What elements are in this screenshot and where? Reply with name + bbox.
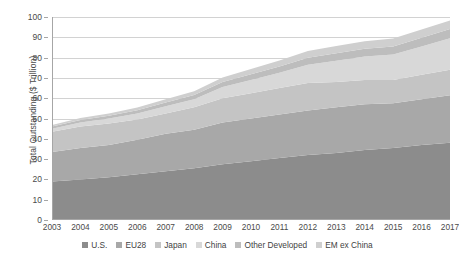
y-tick-label: 80 bbox=[33, 53, 42, 63]
legend-swatch-icon bbox=[155, 242, 161, 248]
legend-label: China bbox=[205, 240, 227, 250]
x-tick-label: 2008 bbox=[185, 222, 203, 232]
y-tick-mark bbox=[44, 119, 48, 120]
y-tick-label: 30 bbox=[33, 154, 42, 164]
x-tick-label: 2017 bbox=[441, 222, 459, 232]
y-tick-label: 70 bbox=[33, 73, 42, 83]
y-tick-mark bbox=[44, 200, 48, 201]
legend-swatch-icon bbox=[196, 242, 202, 248]
legend-label: Other Developed bbox=[244, 240, 307, 250]
legend-item[interactable]: Japan bbox=[155, 240, 187, 250]
x-tick-label: 2003 bbox=[43, 222, 61, 232]
y-tick-label: 40 bbox=[33, 134, 42, 144]
y-tick-mark bbox=[44, 220, 48, 221]
x-tick-label: 2011 bbox=[271, 222, 289, 232]
y-tick-label: 10 bbox=[33, 195, 42, 205]
legend-label: EU28 bbox=[125, 240, 146, 250]
chart-legend: U.S.EU28JapanChinaOther DevelopedEM ex C… bbox=[0, 240, 455, 250]
legend-label: U.S. bbox=[91, 240, 107, 250]
y-tick-mark bbox=[44, 58, 48, 59]
y-tick-mark bbox=[44, 37, 48, 38]
legend-item[interactable]: EM ex China bbox=[316, 240, 373, 250]
x-tick-label: 2010 bbox=[242, 222, 260, 232]
legend-item[interactable]: EU28 bbox=[116, 240, 146, 250]
x-tick-label: 2013 bbox=[327, 222, 345, 232]
legend-item[interactable]: Other Developed bbox=[235, 240, 307, 250]
y-tick-mark bbox=[44, 78, 48, 79]
y-tick-label: 50 bbox=[33, 114, 42, 124]
legend-swatch-icon bbox=[316, 242, 322, 248]
plot-frame bbox=[52, 17, 450, 220]
y-tick-mark bbox=[44, 17, 48, 18]
legend-label: Japan bbox=[164, 240, 187, 250]
y-tick-mark bbox=[44, 159, 48, 160]
y-tick-label: 90 bbox=[33, 32, 42, 42]
y-tick-mark bbox=[44, 98, 48, 99]
y-tick-label: 60 bbox=[33, 93, 42, 103]
x-tick-label: 2004 bbox=[71, 222, 89, 232]
x-tick-label: 2014 bbox=[355, 222, 373, 232]
y-tick-label: 20 bbox=[33, 174, 42, 184]
legend-swatch-icon bbox=[116, 242, 122, 248]
plot-area bbox=[52, 17, 450, 220]
legend-label: EM ex China bbox=[325, 240, 373, 250]
x-tick-label: 2009 bbox=[213, 222, 231, 232]
x-tick-label: 2016 bbox=[412, 222, 430, 232]
y-axis-tick-labels: 0102030405060708090100 bbox=[0, 17, 48, 220]
y-tick-label: 0 bbox=[37, 215, 42, 225]
x-tick-label: 2007 bbox=[156, 222, 174, 232]
y-tick-mark bbox=[44, 139, 48, 140]
legend-swatch-icon bbox=[82, 242, 88, 248]
legend-swatch-icon bbox=[235, 242, 241, 248]
legend-item[interactable]: U.S. bbox=[82, 240, 107, 250]
y-tick-label: 100 bbox=[28, 12, 42, 22]
x-tick-label: 2015 bbox=[384, 222, 402, 232]
x-tick-label: 2005 bbox=[100, 222, 118, 232]
x-tick-label: 2006 bbox=[128, 222, 146, 232]
legend-item[interactable]: China bbox=[196, 240, 227, 250]
y-tick-mark bbox=[44, 179, 48, 180]
x-tick-label: 2012 bbox=[299, 222, 317, 232]
x-axis-tick-labels: 2003200420052006200720082009201020112012… bbox=[52, 222, 450, 236]
